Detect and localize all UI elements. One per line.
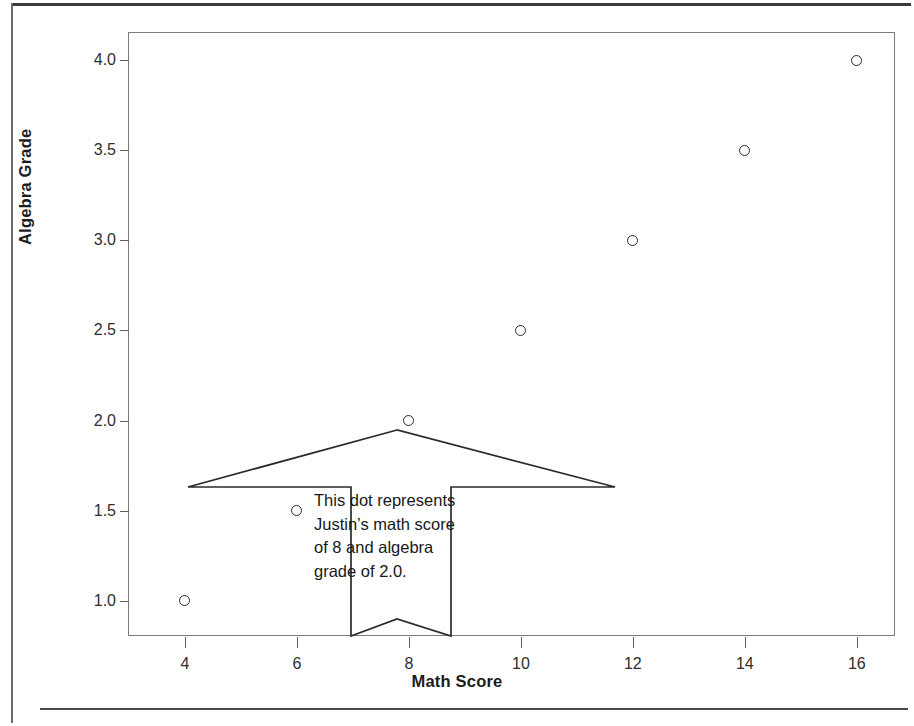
y-tick-label: 1.5 <box>94 502 116 520</box>
page-left-rule <box>11 3 13 723</box>
y-tick-label: 2.5 <box>94 321 116 339</box>
y-tick-label: 3.5 <box>94 141 116 159</box>
x-tick-label: 10 <box>512 655 530 673</box>
callout-line-3: of 8 and algebra <box>314 536 519 560</box>
x-tick-label: 12 <box>624 655 642 673</box>
x-axis-title: Math Score <box>0 672 914 691</box>
x-tick-mark <box>297 637 298 648</box>
x-tick-label: 14 <box>736 655 754 673</box>
x-tick-mark <box>633 637 634 648</box>
x-tick-label: 16 <box>848 655 866 673</box>
x-tick-mark <box>521 637 522 648</box>
x-tick-mark <box>185 637 186 648</box>
callout-line-1: This dot represents <box>314 489 519 513</box>
x-tick-label: 6 <box>293 655 302 673</box>
page-bottom-rule <box>40 708 908 710</box>
page-top-rule <box>11 3 911 6</box>
callout-text: This dot represents Justin’s math score … <box>314 489 519 583</box>
callout-line-4: grade of 2.0. <box>314 560 519 584</box>
scatter-plot-figure: 1.01.52.02.53.03.54.0 46810121416 This d… <box>0 0 914 726</box>
y-axis-title: Algebra Grade <box>16 129 35 245</box>
x-tick-mark <box>745 637 746 648</box>
y-tick-label: 4.0 <box>94 51 116 69</box>
x-tick-label: 8 <box>404 655 413 673</box>
x-tick-mark <box>857 637 858 648</box>
y-tick-label: 1.0 <box>94 592 116 610</box>
x-tick-mark <box>409 637 410 648</box>
y-tick-label: 2.0 <box>94 412 116 430</box>
x-tick-label: 4 <box>181 655 190 673</box>
callout-line-2: Justin’s math score <box>314 513 519 537</box>
y-tick-label: 3.0 <box>94 231 116 249</box>
